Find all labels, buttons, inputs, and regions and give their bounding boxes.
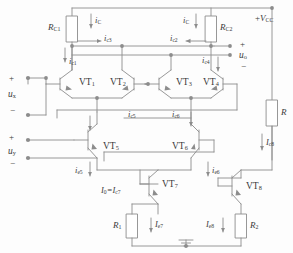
current-ic-left-label: iC xyxy=(95,16,101,26)
current-ic5-label: ic5 xyxy=(128,110,136,120)
transistor-vt3-label: VT3 xyxy=(176,78,192,88)
current-ic3-label: ic3 xyxy=(104,34,112,44)
output-plus-sign: + xyxy=(240,40,245,49)
current-ie5-label: ie5 xyxy=(75,166,83,176)
transistor-vt8-label: VT8 xyxy=(246,182,262,192)
schematic-vector-layer xyxy=(0,0,293,253)
resistor-r1-label: R1 xyxy=(113,221,121,231)
current-ic6-label: ic6 xyxy=(172,110,180,120)
current-ie7-label: Ie7 xyxy=(155,220,163,230)
tail-current-label: I0=Ic7 xyxy=(101,186,121,196)
input-y-minus-sign: − xyxy=(10,159,15,168)
resistor-rc2-label: RC2 xyxy=(220,23,232,33)
current-ic4-label: ic4 xyxy=(202,56,210,66)
input-y-label: uy xyxy=(8,147,16,157)
current-ic-right-label: iC xyxy=(183,16,189,26)
transistor-vt4-label: VT4 xyxy=(203,78,219,88)
current-ic1-label: ic1 xyxy=(69,57,77,67)
transistor-vt7-label: VT7 xyxy=(162,180,178,190)
ground-symbol xyxy=(179,238,195,250)
current-ie6-label: ie6 xyxy=(212,166,220,176)
resistor-rc1-label: RC1 xyxy=(48,23,60,33)
resistor-r-label: R xyxy=(281,108,287,117)
resistor-r2-label: R2 xyxy=(250,221,258,231)
input-x-minus-sign: − xyxy=(10,106,15,115)
transistor-vt6-label: VT6 xyxy=(172,142,188,152)
input-x-label: ux xyxy=(8,90,16,100)
schematic-canvas: +VCC RC1 RC2 R R1 R2 iC iC ic3 ic2 ic1 i… xyxy=(0,0,293,253)
transistor-vt1-label: VT1 xyxy=(79,78,95,88)
output-minus-sign: − xyxy=(241,62,246,71)
input-y-plus-sign: + xyxy=(9,133,14,142)
output-label: uo xyxy=(239,51,247,61)
current-ic8-label: Ic8 xyxy=(266,138,274,148)
current-ic2-label: ic2 xyxy=(170,34,178,44)
transistor-vt2-label: VT2 xyxy=(110,78,126,88)
current-ie8-label: Ie8 xyxy=(206,220,214,230)
supply-label: +VCC xyxy=(255,14,274,24)
input-x-plus-sign: + xyxy=(9,74,14,83)
transistor-vt5-label: VT5 xyxy=(103,142,119,152)
